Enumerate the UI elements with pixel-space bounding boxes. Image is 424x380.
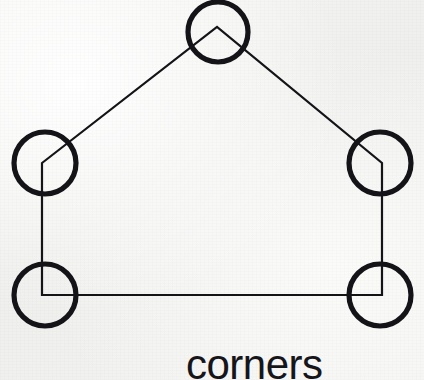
pentagon-shape <box>42 27 382 295</box>
figure-page: corners <box>0 0 424 380</box>
corner-marker-right-middle-icon <box>349 132 411 194</box>
corner-marker-left-middle-icon <box>14 132 76 194</box>
polygon-outline <box>42 27 382 295</box>
corners-diagram <box>0 0 424 380</box>
corner-marker-apex-icon <box>188 2 248 62</box>
corner-markers-group <box>14 2 411 326</box>
